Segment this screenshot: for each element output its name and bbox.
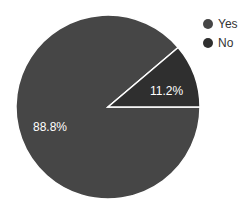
legend-dot-no-icon: [203, 38, 213, 48]
slice-label-yes: 88.8%: [33, 120, 67, 134]
legend: Yes No: [203, 14, 238, 52]
legend-label-yes: Yes: [218, 17, 238, 31]
legend-item-no[interactable]: No: [203, 33, 238, 52]
legend-label-no: No: [218, 36, 233, 50]
legend-item-yes[interactable]: Yes: [203, 14, 238, 33]
slice-label-no: 11.2%: [150, 84, 183, 98]
legend-dot-yes-icon: [203, 19, 213, 29]
